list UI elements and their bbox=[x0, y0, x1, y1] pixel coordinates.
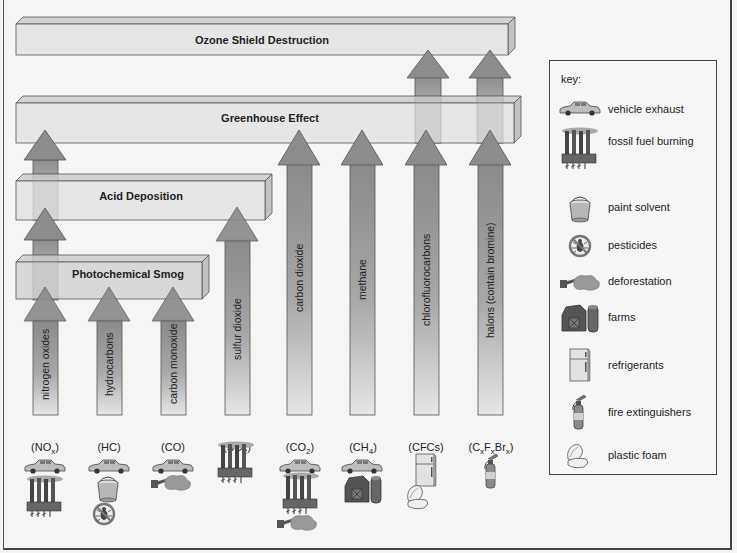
formula-cfcs: (CFCs) bbox=[408, 441, 443, 453]
foam-container-icon bbox=[408, 486, 428, 509]
factory-icon bbox=[27, 476, 63, 518]
factory-icon bbox=[558, 123, 602, 173]
arrow-carbon-dioxide: carbon dioxide bbox=[278, 130, 320, 415]
arrow-nitrogen-oxides: nitrogen oxides bbox=[24, 287, 66, 415]
key-item-paint-solvent: paint solvent bbox=[550, 193, 716, 223]
legend-key: key: vehicle exhaust fossil fuel burning… bbox=[549, 60, 717, 475]
bar-greenhouse-effect: Greenhouse Effect bbox=[16, 96, 521, 143]
key-item-fire-extinguishers: fire extinguishers bbox=[550, 393, 716, 431]
bar-label-ozone: Ozone Shield Destruction bbox=[195, 34, 329, 46]
formula-ch4: (CH4) bbox=[349, 441, 377, 456]
fire-extinguisher-icon bbox=[485, 454, 498, 488]
no-bug-icon bbox=[558, 231, 602, 261]
formula-hc: (HC) bbox=[97, 441, 120, 453]
formula-nox: (NOx) bbox=[31, 441, 59, 456]
formula-halons: (CxFxBrx) bbox=[468, 441, 513, 456]
bar-ozone-shield-destruction: Ozone Shield Destruction bbox=[16, 17, 515, 55]
arrow-chlorofluorocarbons: chlorofluorocarbons bbox=[405, 130, 447, 415]
foam-container-icon bbox=[558, 441, 602, 471]
car-icon bbox=[89, 460, 129, 474]
key-item-farms: farms bbox=[550, 301, 716, 335]
key-item-vehicle-exhaust: vehicle exhaust bbox=[550, 95, 716, 125]
car-icon bbox=[25, 460, 65, 474]
fire-extinguisher-icon bbox=[558, 393, 602, 431]
arrow-carbon-monoxide: carbon monoxide bbox=[152, 287, 194, 415]
bar-label-acid: Acid Deposition bbox=[99, 190, 183, 202]
bar-label-smog: Photochemical Smog bbox=[72, 268, 184, 280]
car-icon bbox=[558, 95, 602, 125]
label-halons: halons (contain bromine) bbox=[484, 222, 496, 338]
key-title: key: bbox=[561, 73, 581, 85]
key-item-refrigerants: refrigerants bbox=[550, 347, 716, 383]
key-item-plastic-foam: plastic foam bbox=[550, 441, 716, 471]
factory-icon bbox=[283, 473, 319, 515]
formula-co: (CO) bbox=[161, 441, 185, 453]
label-carbon-monoxide: carbon monoxide bbox=[167, 323, 179, 404]
label-methane: methane bbox=[356, 259, 368, 300]
no-bug-icon bbox=[94, 504, 114, 524]
refrigerator-icon bbox=[416, 454, 436, 486]
stump-icon bbox=[151, 476, 191, 491]
label-chlorofluorocarbons: chlorofluorocarbons bbox=[420, 234, 432, 326]
arrow-methane: methane bbox=[341, 130, 383, 415]
car-icon bbox=[280, 460, 320, 474]
label-carbon-dioxide: carbon dioxide bbox=[293, 244, 305, 312]
car-icon bbox=[342, 460, 382, 474]
paint-bucket-icon bbox=[558, 193, 602, 223]
key-item-deforestation: deforestation bbox=[550, 267, 716, 297]
label-nitrogen-oxides: nitrogen oxides bbox=[39, 329, 51, 400]
bar-label-greenhouse: Greenhouse Effect bbox=[221, 112, 319, 124]
paint-bucket-icon bbox=[98, 477, 118, 502]
arrow-sulfur-dioxide: sulfur dioxide bbox=[216, 207, 258, 415]
label-hydrocarbons: hydrocarbons bbox=[103, 332, 115, 396]
stump-icon bbox=[558, 267, 602, 297]
key-item-pesticides: pesticides bbox=[550, 231, 716, 261]
refrigerator-icon bbox=[558, 347, 602, 383]
barn-silo-icon bbox=[345, 476, 381, 503]
stump-icon bbox=[277, 516, 317, 531]
barn-silo-icon bbox=[558, 301, 602, 335]
arrow-halons: halons (contain bromine) bbox=[469, 130, 511, 415]
label-sulfur-dioxide: sulfur dioxide bbox=[231, 298, 243, 360]
key-item-fossil-fuel-burning: fossil fuel burning bbox=[550, 123, 716, 173]
arrow-hydrocarbons: hydrocarbons bbox=[88, 287, 130, 415]
formula-co2: (CO2) bbox=[286, 441, 314, 456]
car-icon bbox=[153, 460, 193, 474]
